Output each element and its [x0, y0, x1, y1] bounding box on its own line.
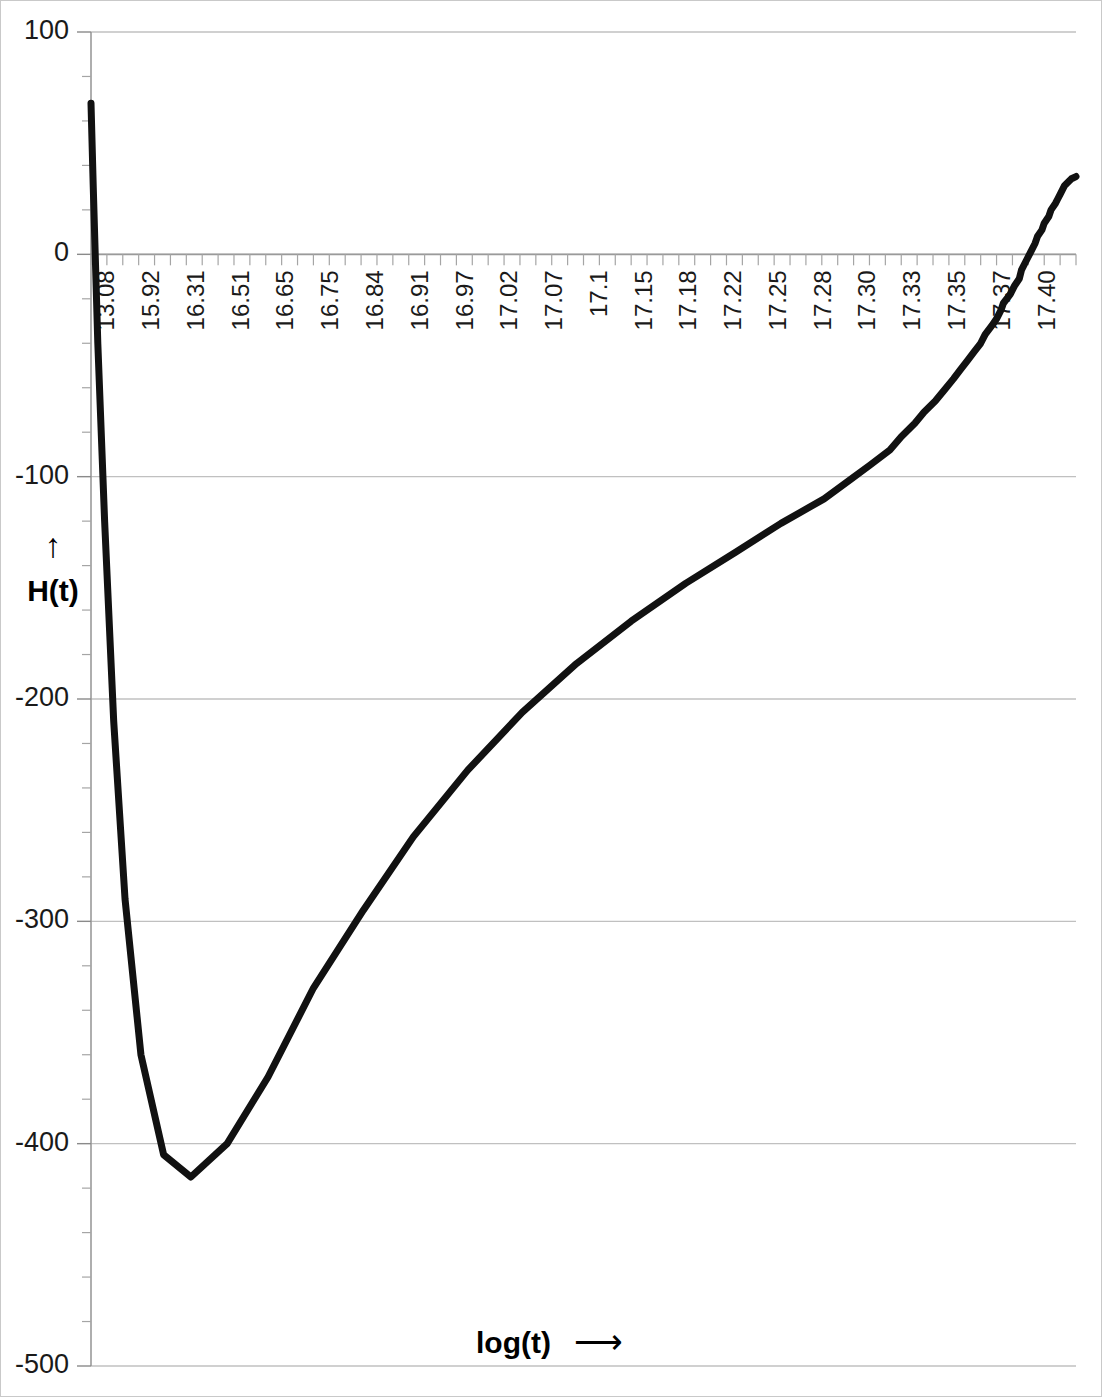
x-tick-label: 17.1 [585, 270, 612, 317]
x-tick-label: 16.91 [406, 270, 433, 330]
y-axis-arrow-icon: ↑ [45, 526, 62, 564]
chart-canvas: 1000-100-200-300-400-500 13.0815.9216.31… [1, 1, 1102, 1397]
x-tick-label: 16.97 [451, 270, 478, 330]
chart-page: 1000-100-200-300-400-500 13.0815.9216.31… [0, 0, 1102, 1397]
x-tick-label: 17.18 [674, 270, 701, 330]
x-tick-label: 17.28 [809, 270, 836, 330]
y-tick-label: 0 [54, 237, 69, 267]
y-axis-title: H(t) [27, 574, 79, 607]
x-tick-labels: 13.0815.9216.3116.5116.6516.7516.8416.91… [92, 270, 1059, 330]
y-axis-layer [77, 32, 91, 1366]
x-tick-label: 17.35 [943, 270, 970, 330]
y-tick-labels: 1000-100-200-300-400-500 [15, 15, 69, 1379]
x-tick-label: 16.65 [271, 270, 298, 330]
x-tick-label: 17.22 [719, 270, 746, 330]
x-tick-label: 17.40 [1033, 270, 1060, 330]
x-tick-label: 17.30 [853, 270, 880, 330]
x-tick-label: 17.33 [898, 270, 925, 330]
x-tick-label: 17.07 [540, 270, 567, 330]
x-tick-label: 15.92 [137, 270, 164, 330]
x-axis-layer [91, 254, 1076, 265]
x-tick-label: 17.25 [764, 270, 791, 330]
x-tick-label: 16.75 [316, 270, 343, 330]
y-tick-label: -100 [15, 460, 69, 490]
y-tick-label: -200 [15, 682, 69, 712]
x-axis-arrow-icon: ⟶ [574, 1322, 623, 1360]
x-axis-title: log(t) [476, 1326, 551, 1359]
y-tick-label: -500 [15, 1349, 69, 1379]
x-tick-label: 17.15 [630, 270, 657, 330]
grid-layer [91, 32, 1076, 1366]
x-tick-label: 16.51 [227, 270, 254, 330]
y-tick-label: 100 [24, 15, 69, 45]
x-tick-label: 16.84 [361, 270, 388, 330]
y-tick-label: -300 [15, 904, 69, 934]
x-tick-label: 16.31 [182, 270, 209, 330]
x-tick-label: 17.02 [495, 270, 522, 330]
y-tick-label: -400 [15, 1127, 69, 1157]
